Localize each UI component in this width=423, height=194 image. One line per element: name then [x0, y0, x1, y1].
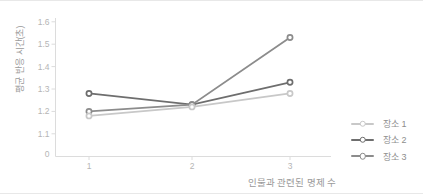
- y-tick-label: 1.2: [38, 106, 50, 116]
- legend: 장소 1 장소 2 장소 3: [351, 118, 407, 167]
- legend-item-place-2[interactable]: 장소 2: [351, 134, 407, 145]
- data-point-marker: [287, 80, 292, 85]
- y-tick-label: 1.3: [38, 84, 50, 94]
- y-axis-title: 평균 반응 시간(초): [13, 26, 26, 93]
- x-axis-title: 인물과 관련된 명제 수: [248, 175, 337, 189]
- legend-label: 장소 1: [383, 117, 407, 130]
- circle-marker-icon: [359, 137, 366, 144]
- x-tick-label: 1: [87, 161, 92, 171]
- data-point-marker: [86, 91, 91, 96]
- legend-line-icon: [351, 155, 374, 157]
- y-tick-label: 1.6: [38, 17, 50, 27]
- legend-label: 장소 3: [383, 150, 407, 163]
- x-tick-label: 3: [288, 161, 293, 171]
- data-point-marker: [287, 91, 292, 96]
- legend-item-place-1[interactable]: 장소 1: [351, 118, 407, 129]
- y-tick-label: 1.5: [38, 39, 50, 49]
- y-tick-label: 1.4: [38, 62, 50, 72]
- y-tick-label: 0: [45, 149, 50, 159]
- data-point-marker: [86, 113, 91, 118]
- series-line-3: [89, 37, 290, 111]
- data-point-marker: [287, 35, 292, 40]
- legend-label: 장소 2: [383, 133, 407, 146]
- y-tick-label: 1.1: [38, 129, 50, 139]
- circle-marker-icon: [359, 153, 366, 160]
- x-tick-label: 2: [190, 161, 195, 171]
- data-point-marker: [189, 104, 194, 109]
- series-line-2: [89, 82, 290, 104]
- line-chart: 01.11.21.31.41.51.6123 평균 반응 시간(초) 인물과 관…: [0, 0, 423, 194]
- legend-line-icon: [351, 139, 374, 141]
- legend-item-place-3[interactable]: 장소 3: [351, 151, 407, 162]
- circle-marker-icon: [359, 120, 366, 127]
- legend-line-icon: [351, 123, 374, 125]
